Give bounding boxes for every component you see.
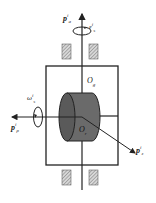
label-top-rotation: εis: [89, 22, 95, 33]
top-bearing-left: [62, 44, 71, 59]
bottom-bearing-right: [89, 170, 98, 185]
top-bearing-right: [89, 44, 98, 59]
label-diagonal-axis: piz: [136, 145, 143, 156]
bottom-bearing-left: [62, 170, 71, 185]
label-left-axis: piρ: [11, 122, 19, 133]
gyroscope-diagram: pia εis ωis piρ piz Og Or: [0, 0, 156, 203]
label-rotor-origin: Or: [79, 126, 87, 136]
label-top-axis: pia: [63, 13, 71, 24]
diagram-graphics: [0, 0, 156, 203]
label-frame-origin: Og: [87, 77, 95, 87]
label-left-rotation: ωis: [27, 93, 35, 104]
